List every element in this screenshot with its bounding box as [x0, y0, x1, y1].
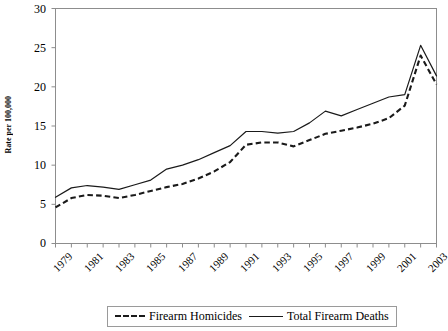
chart-legend: Firearm Homicides Total Firearm Deaths: [107, 306, 397, 327]
solid-line-icon: [249, 316, 283, 317]
dashed-line-icon: [115, 315, 145, 317]
y-tick-marks: [52, 9, 56, 244]
plot-area: [0, 0, 448, 331]
legend-entry-total-firearm-deaths: Total Firearm Deaths: [249, 309, 389, 323]
y-tick-label-5: 5: [24, 198, 46, 210]
legend-entry-firearm-homicides: Firearm Homicides: [115, 309, 242, 323]
y-tick-label-25: 25: [24, 42, 46, 54]
legend-label-total-firearm-deaths: Total Firearm Deaths: [287, 309, 389, 323]
plot-border: [56, 9, 437, 244]
legend-label-firearm-homicides: Firearm Homicides: [149, 309, 242, 323]
chart-figure: Rate per 100,000 30 25 20 15 10 5 0 1979…: [0, 0, 448, 331]
y-tick-label-20: 20: [24, 81, 46, 93]
y-tick-label-30: 30: [24, 3, 46, 15]
y-axis-label: Rate per 100,000: [2, 96, 16, 153]
series-line-total-firearm-deaths: [56, 45, 437, 197]
y-tick-label-15: 15: [24, 120, 46, 132]
x-tick-marks: [56, 244, 437, 248]
y-tick-label-10: 10: [24, 159, 46, 171]
y-tick-label-0: 0: [24, 237, 46, 249]
